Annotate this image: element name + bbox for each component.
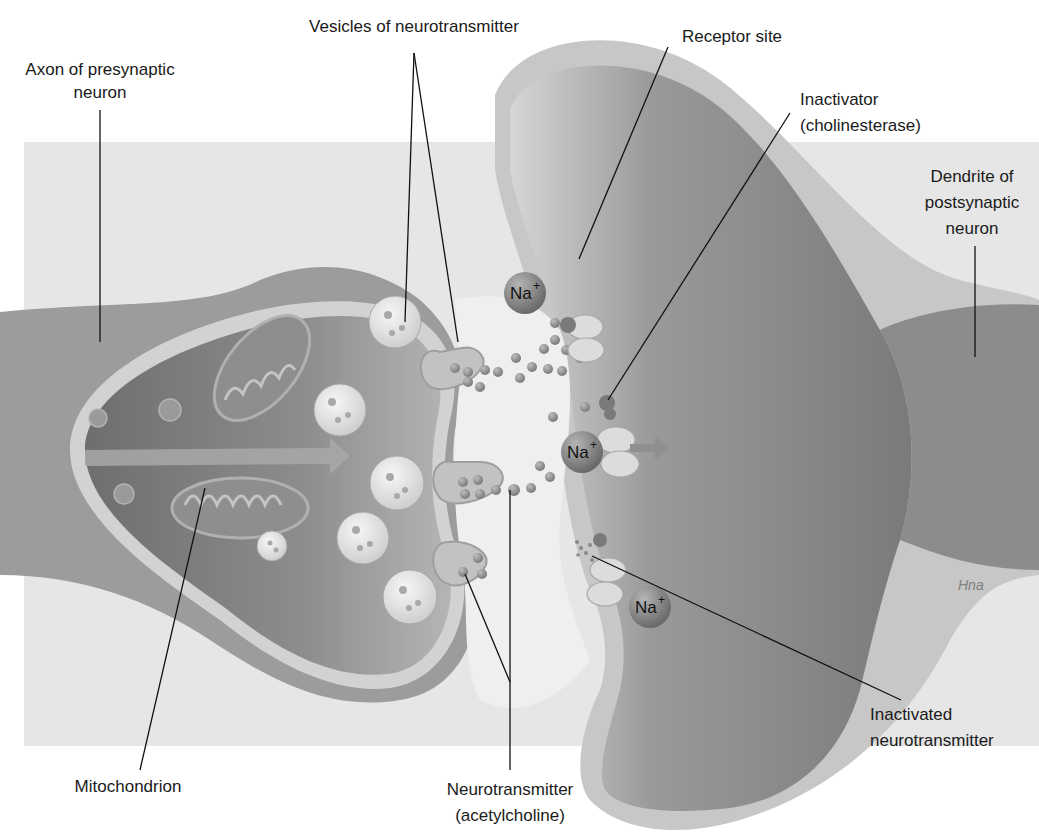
svg-text:Dendrite of: Dendrite of [930, 167, 1013, 186]
label-receptor-site: Receptor site [682, 27, 782, 46]
svg-text:Inactivated: Inactivated [870, 705, 952, 724]
svg-text:Na: Na [635, 598, 657, 617]
sodium-ion-3: Na + [629, 586, 671, 628]
svg-text:Neurotransmitter: Neurotransmitter [447, 780, 574, 799]
svg-text:postsynaptic: postsynaptic [925, 193, 1020, 212]
artist-signature: Hna [958, 577, 984, 593]
svg-text:Na: Na [567, 443, 589, 462]
svg-text:Na: Na [510, 284, 532, 303]
svg-text:neuron: neuron [74, 83, 127, 102]
label-inactivator: Inactivator (cholinesterase) [800, 90, 921, 135]
svg-text:Inactivator: Inactivator [800, 90, 879, 109]
mitochondrion-lower [172, 478, 308, 538]
svg-text:Axon of presynaptic: Axon of presynaptic [25, 60, 175, 79]
label-neurotransmitter: Neurotransmitter (acetylcholine) [447, 780, 574, 825]
sodium-ion-1: Na + [504, 272, 546, 314]
svg-text:neuron: neuron [946, 219, 999, 238]
svg-text:+: + [658, 593, 665, 607]
synapse-diagram: Na + Na + Na + Hna Axon of presynaptic n… [0, 0, 1039, 835]
svg-text:(cholinesterase): (cholinesterase) [800, 116, 921, 135]
svg-text:+: + [590, 438, 597, 452]
svg-text:neurotransmitter: neurotransmitter [870, 731, 994, 750]
label-vesicles: Vesicles of neurotransmitter [309, 17, 519, 36]
svg-text:+: + [533, 279, 540, 293]
sodium-ion-2: Na + [561, 431, 603, 473]
label-axon: Axon of presynaptic neuron [25, 60, 175, 102]
label-mitochondrion: Mitochondrion [75, 777, 182, 796]
svg-text:(acetylcholine): (acetylcholine) [455, 806, 565, 825]
